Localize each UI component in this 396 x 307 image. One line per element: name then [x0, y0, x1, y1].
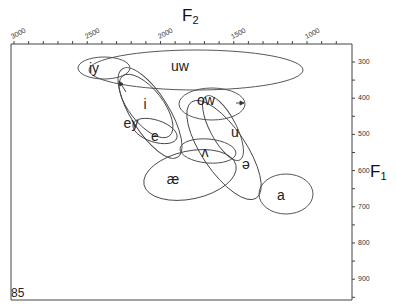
vowel-label-ae: æ [167, 171, 179, 187]
vowel-label-ey: ey [124, 115, 139, 131]
x-axis-title-text: F [182, 6, 192, 25]
ellipse-iy [78, 57, 130, 79]
ellipse-ae [139, 142, 241, 208]
plot-frame [11, 44, 352, 300]
y-axis-title-text: F [370, 162, 380, 181]
y-axis-title-subscript: 1 [380, 170, 386, 182]
vowel-label-iy: iy [89, 60, 99, 76]
x-axis-title-subscript: 2 [192, 14, 198, 26]
y-tick-label: 500 [358, 130, 370, 137]
vowel-label-a: a [277, 187, 285, 203]
y-tick-label: 900 [358, 275, 370, 282]
x-axis-title: F2 [182, 6, 199, 26]
arrow-head-icon [240, 101, 244, 105]
vowel-label-i: i [143, 96, 146, 112]
vowel-label-schwa: ə [242, 156, 250, 172]
y-tick-label: 400 [358, 94, 370, 101]
y-tick-label: 800 [358, 239, 370, 246]
vowel-label-uw: uw [171, 58, 189, 74]
formant-chart: F2 F1 3000 2500 2000 1500 1000 300 400 5… [0, 0, 396, 307]
ellipse-a [259, 174, 313, 214]
vowel-label-wedge: ʌ [202, 144, 209, 160]
y-tick-label: 300 [358, 58, 370, 65]
chart-canvas [0, 0, 396, 307]
y-tick-label: 700 [358, 203, 370, 210]
y-tick-label: 600 [358, 167, 370, 174]
arrow-head-icon [119, 81, 123, 86]
diphthong-arrows [119, 81, 244, 105]
figure-number: 85 [11, 286, 24, 300]
vowel-label-e: e [151, 128, 159, 144]
vowel-label-ow: ow [197, 92, 215, 108]
vowel-label-u: u [231, 124, 239, 140]
y-axis-title: F1 [370, 162, 387, 182]
